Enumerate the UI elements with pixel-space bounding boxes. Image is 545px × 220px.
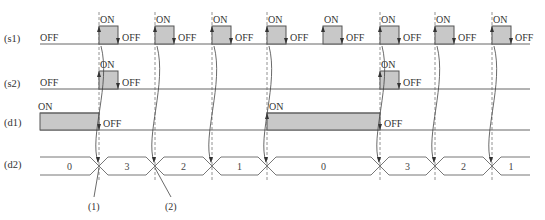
- s1-on-pulse: [435, 26, 454, 44]
- s1-on-label: ON: [156, 14, 170, 25]
- s2-off-label: OFF: [403, 77, 422, 88]
- s1-off-label: OFF: [346, 32, 365, 43]
- s2-off-label: OFF: [122, 77, 141, 88]
- s1-on-label: ON: [436, 14, 450, 25]
- s2-off-label: OFF: [40, 77, 59, 88]
- d2-value: 1: [509, 161, 514, 172]
- s1-on-pulse: [380, 26, 399, 44]
- d1-on-region: [40, 113, 99, 130]
- s1-on-label: ON: [381, 14, 395, 25]
- callout-label: (2): [165, 201, 177, 213]
- s1-on-label: ON: [100, 14, 114, 25]
- s1-on-pulse: [323, 26, 342, 44]
- s1-off-label: OFF: [178, 32, 197, 43]
- d1-on-label: ON: [269, 101, 283, 112]
- row-label-d2: (d2): [4, 159, 22, 171]
- causal-curve: [432, 46, 440, 162]
- row-label-s1: (s1): [4, 33, 21, 45]
- s1-off-label: OFF: [458, 32, 477, 43]
- s1-on-label: ON: [268, 14, 282, 25]
- d2-value: 0: [321, 161, 326, 172]
- signal-s2: OFFONOFFONOFF: [40, 59, 530, 89]
- s1-off-label: OFF: [403, 32, 422, 43]
- bus-d2: 03210321: [40, 157, 530, 175]
- s1-off-label: OFF: [40, 32, 59, 43]
- s1-on-pulse: [155, 26, 174, 44]
- s1-on-pulse: [99, 26, 118, 44]
- callout-leader: [155, 168, 171, 197]
- row-labels: (s1)(s2)(d1)(d2): [4, 33, 22, 171]
- d2-value: 1: [237, 161, 242, 172]
- s1-on-label: ON: [324, 14, 338, 25]
- s2-on-label: ON: [100, 59, 114, 70]
- s2-on-pulse: [380, 71, 399, 89]
- timing-diagram: (s1)(s2)(d1)(d2) OFFONOFFONOFFONOFFONOFF…: [0, 0, 545, 220]
- s1-on-pulse: [267, 26, 286, 44]
- s1-off-label: OFF: [290, 32, 309, 43]
- d1-on-region: [267, 113, 380, 130]
- d1-on-label: ON: [38, 101, 52, 112]
- row-label-d1: (d1): [4, 117, 22, 129]
- signal-s1: OFFONOFFONOFFONOFFONOFFONOFFONOFFONOFFON…: [40, 14, 534, 44]
- callout-leader: [94, 168, 99, 197]
- d2-value: 2: [461, 161, 466, 172]
- d2-value: 3: [125, 161, 130, 172]
- causal-curve: [209, 46, 217, 162]
- causal-curve: [489, 46, 497, 162]
- s1-on-pulse: [212, 26, 231, 44]
- d2-value: 3: [405, 161, 410, 172]
- s2-on-label: ON: [381, 59, 395, 70]
- d2-value: 0: [67, 161, 72, 172]
- signal-d1: ONOFFONOFF: [38, 101, 530, 130]
- causal-curve: [152, 46, 160, 162]
- causal-arrows: [96, 46, 497, 163]
- s1-off-label: OFF: [235, 32, 254, 43]
- d2-value: 2: [181, 161, 186, 172]
- s1-off-label: OFF: [122, 32, 141, 43]
- callout-label: (1): [88, 201, 100, 213]
- s1-on-pulse: [492, 26, 511, 44]
- s2-on-pulse: [99, 71, 118, 89]
- row-label-s2: (s2): [4, 78, 21, 90]
- d1-off-label: OFF: [103, 118, 122, 129]
- s1-off-label: OFF: [515, 32, 534, 43]
- d1-off-label: OFF: [384, 118, 403, 129]
- s1-on-label: ON: [493, 14, 507, 25]
- s1-on-label: ON: [213, 14, 227, 25]
